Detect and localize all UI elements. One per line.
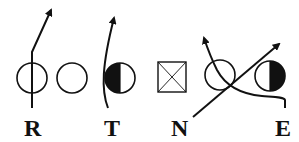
- half-filled-circle-icon: [270, 61, 285, 91]
- player-r: [17, 10, 51, 108]
- label-e: E: [275, 116, 291, 140]
- play-diagram: [0, 0, 299, 142]
- route-arrow-t: [104, 18, 114, 108]
- label-t: T: [104, 116, 120, 140]
- player-t: [104, 18, 135, 108]
- player-n-box: [158, 62, 186, 92]
- half-filled-circle-icon: [105, 63, 120, 93]
- label-n: N: [171, 116, 188, 140]
- player-e: [255, 61, 285, 91]
- label-r: R: [24, 116, 41, 140]
- player-open-circle: [57, 63, 87, 93]
